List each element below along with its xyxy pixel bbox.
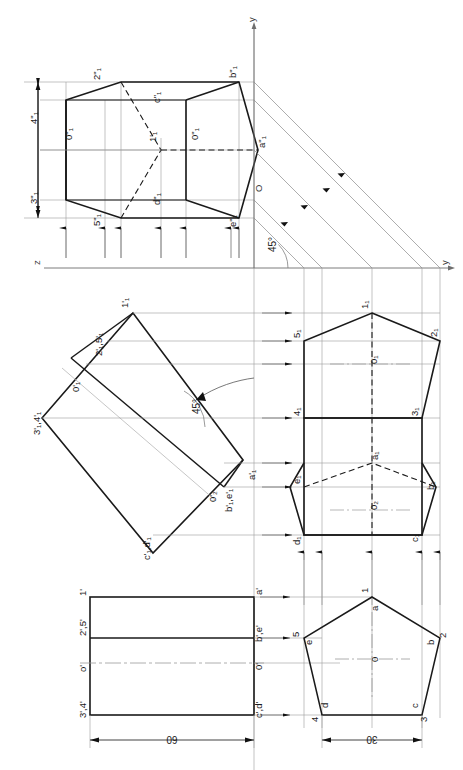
label-b-double-prime-1: b"₁: [227, 66, 238, 78]
label-pentagon-o2: 0₂: [368, 501, 379, 510]
label-top-d: d: [319, 703, 330, 708]
bottom-projection-arrows: [260, 597, 290, 715]
label-o-double-prime-1-right: 0"₁: [189, 128, 200, 140]
label-3-double-prime-1: 3"₁: [28, 192, 39, 204]
construction-lines: [24, 25, 254, 770]
label-pentagon-b: b₁: [425, 482, 436, 491]
label-d-double-prime-1: d"₁: [151, 193, 162, 205]
label-top-1: 1: [359, 588, 370, 593]
label-z-axis: z: [31, 260, 42, 265]
label-3-4-prime-1-mid: 3'₁,4'₁: [31, 412, 42, 435]
dimension-text-60: 60: [166, 734, 178, 745]
technical-drawing-sheet: 4"₁ 3"₁ 2"₁ 5"₁ 0"₁ 1'₁ 0"₁ c"₁ d"₁ b"₁ …: [0, 0, 463, 770]
upward-projection-arrows: [66, 228, 239, 258]
label-c-d-prime-1-mid: c'₁,d'₁: [141, 537, 152, 560]
angle-arc-upper: [279, 245, 289, 269]
label-front-1-prime: 1': [77, 589, 88, 596]
label-pentagon-3: 3₁: [409, 408, 420, 417]
label-45-degrees-mid: 45°: [191, 399, 202, 414]
label-5-double-prime-1: 5"₁: [91, 214, 102, 226]
label-y-axis-top: y: [246, 17, 257, 22]
auxiliary-pentagon-view: [290, 313, 440, 535]
front-view: [80, 597, 264, 715]
mid-projection-arrows: [262, 313, 292, 535]
label-2-double-prime-1: 2"₁: [91, 68, 102, 80]
label-pentagon-d: d₁: [291, 537, 302, 546]
label-pentagon-4: 4₁: [291, 408, 302, 417]
label-front-3-4-prime: 3',4': [77, 701, 88, 718]
label-front-0-prime: 0': [253, 663, 264, 670]
label-top-4: 4: [309, 717, 320, 722]
auxiliary-inclined-view: [42, 313, 243, 553]
label-front-b-e-prime: b',e': [253, 625, 264, 642]
label-top-5: 5: [290, 632, 301, 637]
label-b-e-prime-1-mid: b'₁,e'₁: [223, 489, 234, 512]
zy-axis-horizontal: [44, 266, 455, 271]
label-front-a-prime: a': [253, 588, 264, 595]
upper-45-degree-projectors: [254, 82, 440, 268]
label-o-prime-2-mid: 0'₂: [207, 491, 218, 502]
angle-leader-mid: [196, 378, 254, 400]
label-1-prime-1-mid: 1'₁: [119, 298, 130, 308]
label-pentagon-1: 1₁: [359, 301, 370, 310]
label-o-prime-1-mid: 0'₁: [70, 382, 81, 392]
front-view-rectangle: [90, 597, 254, 715]
top-view-centerlines: [335, 612, 410, 700]
label-c-double-prime-1: c"₁: [151, 92, 162, 103]
label-top-b: b: [425, 640, 436, 645]
inclined-rect-outer: [42, 313, 243, 553]
label-a-double-prime-1: a"₁: [256, 136, 267, 148]
drawing-canvas: 4"₁ 3"₁ 2"₁ 5"₁ 0"₁ 1'₁ 0"₁ c"₁ d"₁ b"₁ …: [0, 0, 463, 770]
label-top-2: 2: [437, 633, 448, 638]
label-top-a: a: [369, 605, 380, 611]
label-front-o-prime: o': [77, 665, 88, 672]
aux-pentagon-centerlines: [330, 364, 412, 510]
label-a-prime-1-mid: a'₁: [246, 470, 257, 480]
label-y-axis-right: y: [439, 260, 450, 265]
label-pentagon-2: 2₁: [428, 329, 439, 338]
label-1-prime-1-upper: 1'₁: [147, 132, 158, 142]
label-top-o: 0: [369, 657, 380, 662]
label-4-double-prime-1: 4"₁: [28, 112, 39, 124]
label-front-2-5-prime: 2',5': [77, 619, 88, 636]
label-45-degrees-upper: 45°: [267, 237, 278, 252]
dimension-text-30: 30: [366, 734, 378, 745]
label-pentagon-5: 5₁: [291, 330, 302, 339]
label-top-c: c: [409, 703, 420, 708]
aux-pentagon-lower: [290, 463, 436, 535]
bottom-horizontal-construction: [254, 597, 422, 715]
label-pentagon-o1: 0₁: [368, 356, 379, 365]
label-top-3: 3: [418, 717, 429, 722]
label-o-double-prime-1-left: 0"₁: [63, 128, 74, 140]
label-top-e: e: [303, 640, 314, 645]
label-pentagon-c: c₁: [409, 534, 420, 542]
label-pentagon-e: e₁: [291, 476, 302, 485]
label-pentagon-a: a₁: [369, 452, 380, 461]
label-2-5-prime-1-mid: 2'₁,5'₁: [93, 333, 104, 356]
label-e-double-prime-1: e"₁: [227, 215, 238, 227]
label-front-c-d-prime: c',d': [253, 702, 264, 718]
label-origin-upper: O: [253, 185, 264, 192]
